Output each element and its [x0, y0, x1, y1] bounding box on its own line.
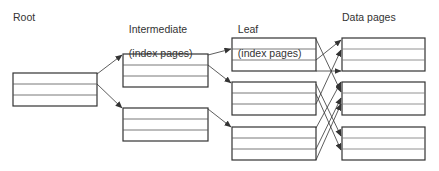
root-to-intermediate-arrows — [97, 55, 122, 108]
btree-diagram — [0, 0, 439, 171]
leaf-to-data-arrows — [316, 39, 341, 160]
root-page — [13, 73, 97, 106]
data-page-2 — [342, 82, 425, 115]
intermediate-to-leaf-arrows — [208, 49, 231, 127]
leaf-page-1 — [232, 38, 316, 71]
intermediate-page-1 — [123, 54, 208, 87]
data-page-1 — [342, 38, 425, 71]
leaf-page-2 — [232, 82, 316, 115]
data-page-3 — [342, 127, 425, 160]
leaf-page-3 — [232, 127, 316, 160]
intermediate-page-2 — [123, 108, 208, 141]
